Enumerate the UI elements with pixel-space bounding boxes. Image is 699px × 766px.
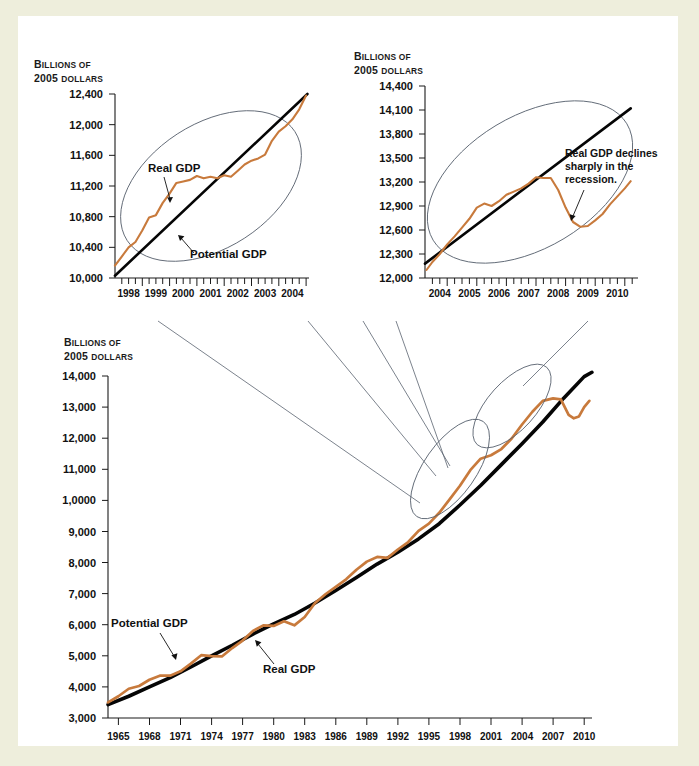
main-xtick-2: 1971 [169, 731, 192, 742]
inset-left-ytick-4: 10,800 [69, 211, 103, 223]
connector-right-inner [396, 321, 448, 468]
inset-left-ytick-2: 11,600 [70, 149, 103, 161]
inset-right-real-gdp-line [426, 177, 630, 270]
main-xtick-3: 1974 [200, 731, 223, 742]
inset-left-ytick-1: 12,000 [69, 119, 103, 131]
gdp-figure: BILLIONS OF 2005 DOLLARS 12,400 12,000 1… [18, 16, 678, 746]
recession-note-line3: recession. [565, 173, 617, 185]
inset-right-y-ticks: 14,400 14,100 13,800 13,500 13,200 12,90… [379, 80, 425, 284]
main-potential-gdp-label: Potential GDP [111, 617, 188, 629]
connector-right-lower [363, 321, 450, 466]
main-axis-title-line1: BILLIONS OF [64, 336, 121, 348]
inset-right-ytick-6: 12,600 [379, 224, 413, 236]
main-real-gdp-arrowhead [255, 640, 261, 647]
main-potential-gdp-leader [160, 633, 174, 656]
inset-right-ytick-2: 13,800 [379, 128, 413, 140]
inset-left-xtick-2: 2000 [172, 288, 195, 299]
inset-left-chart: BILLIONS OF 2005 DOLLARS 12,400 12,000 1… [34, 58, 329, 299]
main-ytick-3: 11,000 [63, 463, 96, 475]
inset-left-xtick-5: 2003 [254, 288, 277, 299]
inset-right-ytick-3: 13,500 [379, 152, 413, 164]
main-xtick-0: 1965 [107, 731, 130, 742]
inset-left-potential-gdp-label: Potential GDP [190, 248, 267, 260]
connector-left-upper [308, 321, 436, 476]
main-potential-gdp-arrowhead [171, 653, 177, 660]
main-ytick-2: 12,000 [62, 432, 96, 444]
main-x-labels: 1965 1968 1971 1974 1977 1980 1983 1986 … [107, 731, 595, 742]
main-ytick-10: 4,000 [68, 681, 96, 693]
main-ytick-11: 3,000 [68, 712, 96, 724]
inset-left-xtick-6: 2004 [281, 288, 304, 299]
inset-left-x-minor-ticks [122, 278, 306, 286]
main-xtick-10: 1995 [418, 731, 441, 742]
inset-left-real-gdp-arrowhead [167, 197, 173, 203]
inset-left-potential-gdp-leader [181, 238, 194, 253]
main-axis-title-line2: 2005 DOLLARS [64, 350, 133, 362]
main-xtick-11: 1998 [449, 731, 472, 742]
inset-right-xtick-2: 2006 [488, 288, 511, 299]
inset-right-xtick-5: 2009 [577, 288, 600, 299]
inset-left-y-ticks: 12,400 12,000 11,600 11,200 10,800 10,40… [69, 88, 115, 284]
inset-right-xtick-3: 2007 [517, 288, 540, 299]
main-potential-gdp-line [108, 372, 592, 704]
main-xtick-9: 1992 [387, 731, 410, 742]
inset-right-ytick-7: 12,300 [379, 248, 413, 260]
inset-right-ytick-5: 12,900 [379, 200, 413, 212]
inset-left-axis-title-line1: BILLIONS OF [34, 58, 91, 70]
inset-right-xtick-6: 2010 [606, 288, 629, 299]
inset-right-axis-title-line1: BILLIONS OF [354, 50, 411, 62]
main-y-ticks: 14,000 13,000 12,000 11,000 1,0000 9,000… [62, 370, 108, 724]
inset-right-axis-title-line2: 2005 DOLLARS [354, 64, 423, 76]
main-real-gdp-line [108, 398, 589, 702]
inset-left-ytick-6: 10,000 [69, 272, 103, 284]
inset-left-xtick-3: 2001 [199, 288, 222, 299]
recession-note-line2: sharply in the [565, 160, 633, 172]
figure-page: BILLIONS OF 2005 DOLLARS 12,400 12,000 1… [0, 0, 699, 766]
figure-plate: BILLIONS OF 2005 DOLLARS 12,400 12,000 1… [18, 16, 678, 746]
main-ytick-0: 14,000 [62, 370, 96, 382]
inset-right-ytick-8: 12,000 [379, 272, 413, 284]
callout-connectors [158, 321, 588, 503]
inset-right-chart: BILLIONS OF 2005 DOLLARS 14,400 14,100 1… [354, 50, 661, 299]
main-xtick-12: 2001 [480, 731, 503, 742]
connector-left-lower [158, 321, 420, 503]
main-highlight-ellipse-right [459, 351, 564, 460]
inset-left-real-gdp-label: Real GDP [148, 162, 201, 174]
main-real-gdp-label: Real GDP [263, 663, 316, 675]
inset-left-xtick-1: 1999 [145, 288, 168, 299]
main-xtick-14: 2007 [542, 731, 565, 742]
inset-right-xtick-1: 2005 [458, 288, 481, 299]
inset-left-axis-title-line2: 2005 DOLLARS [34, 72, 103, 84]
inset-right-ytick-0: 14,400 [379, 80, 413, 92]
inset-left-ytick-3: 11,200 [70, 180, 103, 192]
main-ytick-7: 7,000 [68, 588, 96, 600]
main-xtick-13: 2004 [511, 731, 534, 742]
inset-right-x-labels: 2004 2005 2006 2007 2008 2009 2010 [429, 288, 629, 299]
inset-left-x-labels: 1998 1999 2000 2001 2002 2003 2004 [117, 288, 303, 299]
inset-right-xtick-4: 2008 [547, 288, 570, 299]
main-xtick-8: 1989 [356, 731, 379, 742]
main-ytick-4: 1,0000 [62, 494, 96, 506]
main-xtick-7: 1986 [325, 731, 348, 742]
main-xtick-1: 1968 [138, 731, 161, 742]
main-ytick-9: 5,000 [68, 650, 96, 662]
main-real-gdp-leader [258, 644, 274, 664]
main-xtick-4: 1977 [231, 731, 254, 742]
main-x-ticks [118, 718, 584, 725]
main-ytick-6: 8,000 [68, 557, 96, 569]
main-ytick-5: 9,000 [68, 526, 96, 538]
inset-left-ytick-5: 10,400 [69, 241, 103, 253]
main-xtick-5: 1980 [263, 731, 286, 742]
main-xtick-6: 1983 [294, 731, 317, 742]
main-ytick-1: 13,000 [62, 401, 96, 413]
inset-left-ytick-0: 12,400 [69, 88, 103, 100]
inset-left-xtick-4: 2002 [227, 288, 250, 299]
main-ytick-8: 6,000 [68, 619, 96, 631]
inset-right-ytick-1: 14,100 [379, 104, 413, 116]
inset-left-xtick-0: 1998 [117, 288, 140, 299]
inset-right-ytick-4: 13,200 [379, 176, 413, 188]
inset-right-xtick-0: 2004 [429, 288, 452, 299]
connector-right-upper [523, 321, 588, 386]
inset-left-potential-gdp-arrowhead [178, 235, 184, 241]
recession-note-line1: Real GDP declines [565, 147, 658, 159]
